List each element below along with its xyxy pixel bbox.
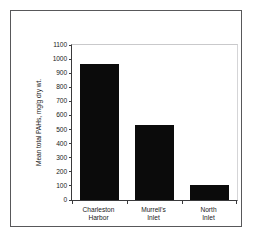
y-axis-tick-mark <box>69 157 72 158</box>
y-axis-tick-mark <box>69 171 72 172</box>
y-axis-tick-label: 200 <box>56 168 67 176</box>
y-axis-tick: 1000 <box>53 55 72 63</box>
y-axis-tick-label: 1000 <box>53 55 67 63</box>
x-axis-tick <box>127 200 128 204</box>
x-axis-label-line: Harbor <box>71 214 126 222</box>
y-axis-tick-label: 800 <box>56 83 67 91</box>
y-axis-tick-label: 600 <box>56 111 67 119</box>
y-axis-tick: 100 <box>56 182 72 190</box>
y-axis-tick-label: 500 <box>56 126 67 134</box>
y-axis-tick: 900 <box>56 69 72 77</box>
y-axis-tick: 500 <box>56 126 72 134</box>
x-axis-label-line: Murrell's <box>126 206 181 214</box>
y-axis-tick-mark <box>69 101 72 102</box>
y-axis-title: Mean total PAHs, mg/g dry wt. <box>34 44 44 201</box>
y-axis-tick: 200 <box>56 168 72 176</box>
x-axis-label-line: Charleston <box>71 206 126 214</box>
bar-0 <box>80 64 119 200</box>
y-axis-tick: 0 <box>63 196 72 204</box>
y-axis-tick-mark <box>69 115 72 116</box>
x-axis-label-line: Inlet <box>181 214 236 222</box>
plot-area: 110010009008007006005004003002001000 <box>71 44 238 201</box>
figure-frame: Mean total PAHs, mg/g dry wt. 1100100090… <box>10 10 242 227</box>
y-axis-tick-label: 1100 <box>53 41 67 49</box>
y-axis-tick-mark <box>69 59 72 60</box>
x-axis-label-0: CharlestonHarbor <box>71 206 126 223</box>
y-axis-tick: 400 <box>56 140 72 148</box>
y-axis-tick: 300 <box>56 154 72 162</box>
x-axis-label-2: NorthInlet <box>181 206 236 223</box>
y-axis-tick: 700 <box>56 97 72 105</box>
y-axis-tick: 600 <box>56 111 72 119</box>
x-axis-tick <box>72 200 73 204</box>
y-axis-tick: 800 <box>56 83 72 91</box>
y-axis-tick-label: 100 <box>56 182 67 190</box>
y-axis-tick-label: 900 <box>56 69 67 77</box>
bar-1 <box>135 125 174 200</box>
y-axis-tick-label: 0 <box>63 196 67 204</box>
x-axis-tick <box>236 200 237 204</box>
y-axis-tick: 1100 <box>53 41 72 49</box>
y-axis-tick-mark <box>69 129 72 130</box>
y-axis-tick-mark <box>69 185 72 186</box>
y-axis-tick-label: 400 <box>56 140 67 148</box>
y-axis-tick-label: 700 <box>56 97 67 105</box>
y-axis-tick-mark <box>69 143 72 144</box>
x-axis-tick <box>182 200 183 204</box>
x-axis-label-1: Murrell'sInlet <box>126 206 181 223</box>
x-axis-label-line: North <box>181 206 236 214</box>
y-axis-tick-mark <box>69 87 72 88</box>
y-axis-tick-mark <box>69 45 72 46</box>
y-axis-tick-mark <box>69 73 72 74</box>
y-axis-tick-label: 300 <box>56 154 67 162</box>
x-axis-label-line: Inlet <box>126 214 181 222</box>
bar-2 <box>190 185 229 200</box>
